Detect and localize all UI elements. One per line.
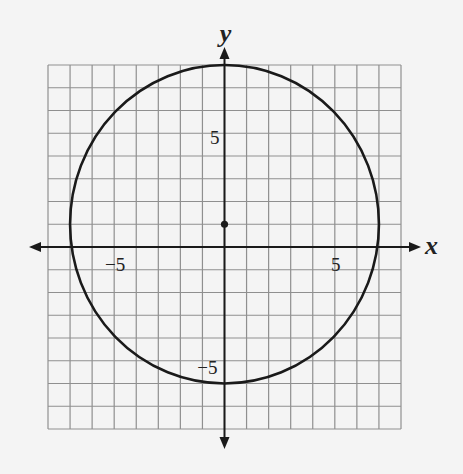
tick-labels: −5 5 5 −5	[105, 127, 340, 378]
x-tick-label: 5	[331, 254, 341, 275]
y-axis-arrow-up-icon	[220, 47, 230, 59]
x-axis-label: x	[424, 231, 438, 260]
y-axis-arrow-down-icon	[220, 437, 230, 449]
axes	[29, 47, 421, 449]
y-tick-label: −5	[197, 357, 217, 378]
coordinate-plane: −5 5 5 −5 x y	[0, 0, 463, 474]
y-tick-label: 5	[210, 127, 220, 148]
x-axis-arrow-left-icon	[29, 242, 41, 252]
center-point	[221, 221, 228, 228]
y-axis-label: y	[217, 19, 232, 48]
x-axis-arrow-right-icon	[409, 242, 421, 252]
x-tick-label: −5	[105, 254, 125, 275]
